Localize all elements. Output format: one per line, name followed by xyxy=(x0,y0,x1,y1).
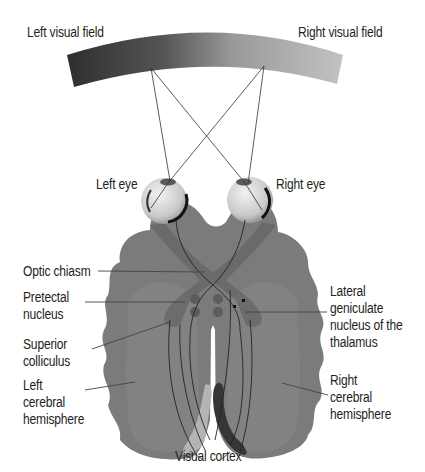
left-hemisphere-inner xyxy=(126,283,200,453)
right-eye xyxy=(227,177,273,223)
label-left-visual-field: Left visual field xyxy=(27,24,104,41)
brain xyxy=(102,200,323,460)
longitudinal-fissure xyxy=(210,325,216,445)
label-lateral-geniculate-nucleus: Lateral geniculate nucleus of the thalam… xyxy=(330,283,403,351)
nucleus xyxy=(190,307,200,317)
label-visual-cortex: Visual cortex xyxy=(175,448,241,465)
label-right-eye: Right eye xyxy=(276,176,325,193)
left-eye xyxy=(141,178,187,224)
label-right-cerebral-hemisphere: Right cerebral hemisphere xyxy=(330,372,391,423)
label-pretectal-nucleus: Pretectal nucleus xyxy=(23,289,69,323)
label-left-cerebral-hemisphere: Left cerebral hemisphere xyxy=(23,377,84,428)
label-optic-chiasm: Optic chiasm xyxy=(23,263,91,280)
nucleus xyxy=(213,307,223,317)
label-right-visual-field: Right visual field xyxy=(298,24,383,41)
label-left-eye: Left eye xyxy=(96,176,137,193)
lgn-marker xyxy=(242,299,245,302)
label-superior-colliculus: Superior colliculus xyxy=(23,336,70,370)
nucleus xyxy=(213,294,223,304)
